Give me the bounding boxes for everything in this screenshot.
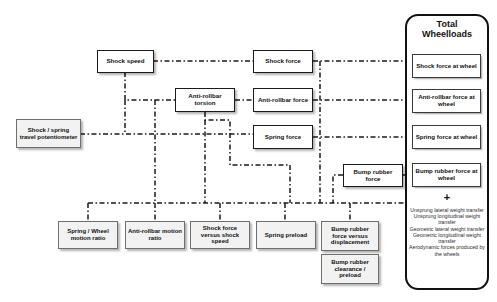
node-label: Shock / spring travel potentiometer [19,127,78,140]
panel-item-label: Spring force at wheel [416,134,478,141]
extras-item: Aerodynamic forces produced by the wheel… [409,244,485,256]
panel-item-antirollbar-force-at-wheel[interactable]: Anti-rollbar force at wheel [412,89,481,113]
node-bump-rubber-force-versus-displacement[interactable]: Bump rubber force versus displacement [321,221,379,251]
node-label: Spring preload [265,232,307,239]
node-label: Spring / Wheel motion ratio [61,228,115,241]
panel-title-line2: Wheelloads [405,29,489,39]
flow-diagram: Shock speed Shock / spring travel potent… [0,0,497,302]
node-label: Shock speed [106,58,144,65]
node-label: Spring force [265,134,301,141]
node-antirollbar-force[interactable]: Anti-rollbar force [253,88,313,112]
node-shock-spring-potentiometer[interactable]: Shock / spring travel potentiometer [16,119,81,148]
node-spring-force[interactable]: Spring force [253,125,313,149]
panel-extras-list: Unsprung lateral weight transfer Unsprun… [409,207,485,257]
node-bump-rubber-force[interactable]: Bump rubber force [343,164,403,187]
node-bump-rubber-clearance-preload[interactable]: Bump rubber clearance / preload [321,254,379,284]
node-spring-wheel-motion-ratio[interactable]: Spring / Wheel motion ratio [58,221,118,249]
wire-bumprubber-left-feed [333,175,343,203]
node-shock-speed[interactable]: Shock speed [97,50,154,73]
panel-title-line1: Total [405,19,489,29]
node-label: Bump rubber force [346,169,400,183]
node-label: Shock force versus shock speed [193,225,247,245]
node-spring-preload[interactable]: Spring preload [256,221,316,249]
panel-item-bump-rubber-force-at-wheel[interactable]: Bump rubber force at wheel [412,163,481,187]
node-label: Bump rubber force versus displacement [324,226,376,246]
node-label: Anti-rollbar motion ratio [128,228,182,241]
panel-item-shock-force-at-wheel[interactable]: Shock force at wheel [412,54,481,78]
wire-shockspeed-down-to-arbtorsion [125,72,175,100]
node-label: Shock force [265,58,300,65]
node-antirollbar-torsion[interactable]: Anti-rollbar torsion [175,88,235,112]
node-label: Bump rubber clearance / preload [324,259,376,279]
panel-item-spring-force-at-wheel[interactable]: Spring force at wheel [412,125,481,149]
panel-title: Total Wheelloads [405,19,489,40]
node-antirollbar-motion-ratio[interactable]: Anti-rollbar motion ratio [125,221,185,249]
panel-item-label: Shock force at wheel [416,63,477,70]
plus-icon: + [405,191,489,203]
node-shock-force-versus-shock-speed[interactable]: Shock force versus shock speed [190,221,250,249]
extras-item: Geometric longitudinal weight transfer [409,232,485,244]
node-label: Anti-rollbar force [258,97,308,104]
node-label: Anti-rollbar torsion [178,93,232,107]
extras-item: Unsprung longitudinal weight transfer [409,213,485,225]
panel-item-label: Anti-rollbar force at wheel [415,94,478,108]
panel-item-label: Bump rubber force at wheel [415,168,478,182]
node-shock-force[interactable]: Shock force [253,50,313,73]
